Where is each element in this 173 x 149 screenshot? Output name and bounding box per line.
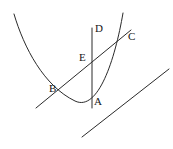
figure-drawing-surface	[0, 0, 173, 149]
point-label-a: A	[94, 96, 102, 107]
secant-line-bc	[36, 30, 131, 108]
point-label-d: D	[95, 23, 103, 34]
point-label-c: C	[128, 31, 135, 42]
point-label-b: B	[49, 83, 56, 94]
parabola-curve	[14, 13, 123, 102]
point-label-e: E	[79, 52, 86, 63]
geometry-figure: D C E B A	[0, 0, 173, 149]
